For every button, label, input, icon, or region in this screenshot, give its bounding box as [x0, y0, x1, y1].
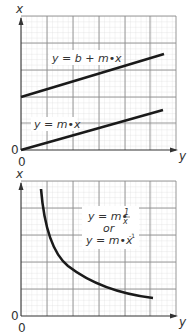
upper-line-equation: y = b + m•x — [51, 52, 122, 65]
fraction-numerator: 1 — [124, 208, 129, 217]
origin-label-horizontal: 0 — [18, 321, 26, 335]
inverse-graph: x y 0 0 y = m• 1 x or y = m•x -1 — [0, 165, 196, 335]
linear-graph-panel: x y 0 0 y = b + m•x y = m•x — [0, 0, 196, 168]
fraction-denominator: x — [122, 217, 128, 226]
horizontal-axis-label: y — [178, 315, 187, 329]
vertical-axis-label: x — [15, 167, 24, 181]
formula-line2: y = m•x — [85, 234, 133, 247]
exponent: -1 — [129, 232, 135, 239]
horizontal-axis-label: y — [178, 149, 187, 163]
vertical-axis-label: x — [15, 2, 24, 16]
linear-graph: x y 0 0 y = b + m•x y = m•x — [0, 0, 196, 168]
inverse-graph-panel: x y 0 0 y = m• 1 x or y = m•x -1 — [0, 165, 196, 335]
lower-line-equation: y = m•x — [33, 118, 81, 131]
